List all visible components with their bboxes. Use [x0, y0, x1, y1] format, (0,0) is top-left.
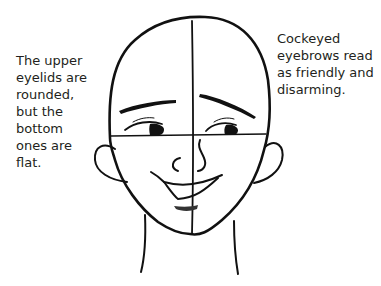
neck-left	[141, 215, 145, 272]
right-eyebrow	[199, 94, 256, 119]
face-drawing	[0, 0, 381, 286]
neck-right	[234, 221, 238, 274]
right-eye	[224, 125, 238, 135]
left-eye	[149, 124, 164, 135]
eye-line	[111, 134, 266, 136]
smile-lower	[164, 178, 218, 199]
right-ear	[254, 143, 283, 183]
nose-left	[173, 158, 180, 171]
left-eyebrow	[119, 100, 176, 114]
nose-right	[198, 140, 205, 171]
vertical-center-line	[192, 21, 193, 234]
right-lid-crease	[214, 118, 234, 122]
lower-lip	[174, 205, 198, 211]
